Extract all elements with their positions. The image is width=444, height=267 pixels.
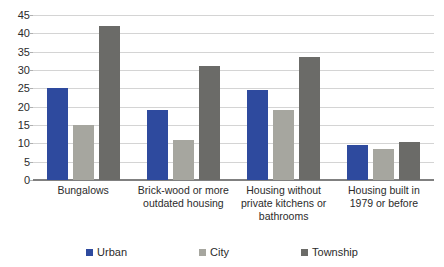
bar-urban [147,110,168,180]
legend-item[interactable]: Urban [86,246,127,258]
y-tick-label: 35 [0,46,30,57]
x-axis-label: Housing built in 1979 or before [336,184,432,210]
bar-township [99,26,120,180]
bar-urban [347,145,368,180]
y-axis: 051015202530354045 [0,15,30,180]
chart-legend: UrbanCityTownship [0,243,444,261]
bar-township [299,57,320,180]
y-tick-label: 30 [0,65,30,76]
legend-swatch-icon [301,249,308,256]
bar-chart: 051015202530354045 BungalowsBrick-wood o… [0,0,444,267]
y-tick-label: 10 [0,138,30,149]
y-tick-label: 15 [0,120,30,131]
y-tick-label: 25 [0,83,30,94]
y-tick-label: 20 [0,101,30,112]
x-axis-label: Housing without private kitchens or bath… [232,184,336,223]
legend-swatch-icon [86,249,93,256]
legend-item[interactable]: Township [301,246,358,258]
x-axis-label: Brick-wood or more outdated housing [135,184,231,210]
legend-item[interactable]: City [199,246,229,258]
bar-urban [247,90,268,180]
plot-area [33,15,434,180]
bar-township [199,66,220,180]
bar-city [273,110,294,180]
x-axis-label: Bungalows [37,184,129,197]
bar-city [73,125,94,180]
legend-label: City [210,246,229,258]
bar-urban [47,88,68,180]
y-tick-label: 45 [0,10,30,21]
y-tick-label: 0 [0,175,30,186]
y-tick-label: 40 [0,28,30,39]
bar-city [373,149,394,180]
bar-group [234,15,334,180]
legend-label: Urban [97,246,127,258]
bar-group [334,15,434,180]
x-axis-category-labels: BungalowsBrick-wood or more outdated hou… [33,184,434,238]
bar-city [173,140,194,180]
bar-group [33,15,133,180]
bar-group [133,15,233,180]
legend-label: Township [312,246,358,258]
y-tick-label: 5 [0,156,30,167]
legend-swatch-icon [199,249,206,256]
bar-township [399,142,420,181]
